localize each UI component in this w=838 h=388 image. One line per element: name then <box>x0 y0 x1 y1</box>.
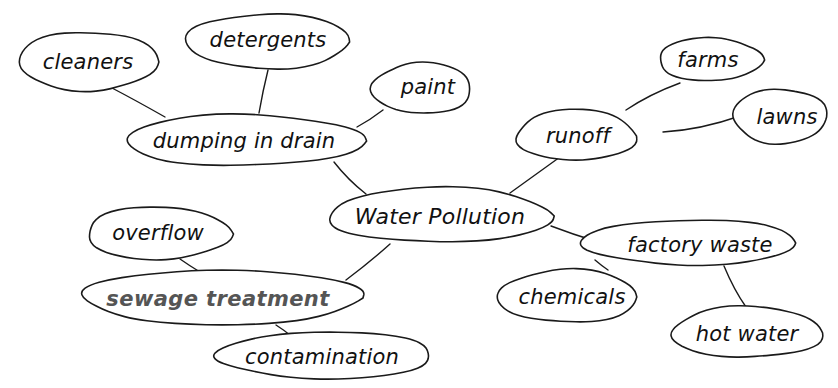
mind-map-canvas: Water Pollution dumping in drain cleaner… <box>0 0 838 388</box>
node-label-overflow: overflow <box>112 221 204 245</box>
node-label-contamination: contamination <box>245 345 399 369</box>
edge-factory-waste-to-hot-water <box>724 266 746 307</box>
edge-runoff-to-lawns <box>663 116 740 132</box>
node-label-detergents: detergents <box>210 28 327 52</box>
node-label-chemicals: chemicals <box>518 285 625 309</box>
edge-water-pollution-to-runoff <box>510 157 560 193</box>
edge-factory-waste-to-chemicals <box>595 260 608 270</box>
node-label-factory-waste: factory waste <box>627 233 772 257</box>
node-label-sewage-treatment: sewage treatment <box>106 287 329 311</box>
edge-water-pollution-to-sewage-treatment <box>346 244 390 280</box>
node-label-hot-water: hot water <box>696 322 799 346</box>
edge-dumping-in-drain-to-cleaners <box>112 88 165 117</box>
node-label-water-pollution: Water Pollution <box>355 204 525 229</box>
node-label-lawns: lawns <box>756 105 817 129</box>
edge-dumping-in-drain-to-detergents <box>259 70 268 113</box>
node-label-cleaners: cleaners <box>43 50 134 74</box>
node-label-farms: farms <box>677 48 738 72</box>
edge-dumping-in-drain-to-paint <box>357 110 383 127</box>
node-label-dumping-in-drain: dumping in drain <box>153 129 336 153</box>
node-label-paint: paint <box>401 75 456 99</box>
edge-runoff-to-farms <box>626 83 680 110</box>
node-label-runoff: runoff <box>546 124 610 148</box>
edge-water-pollution-to-dumping-in-drain <box>334 162 366 194</box>
